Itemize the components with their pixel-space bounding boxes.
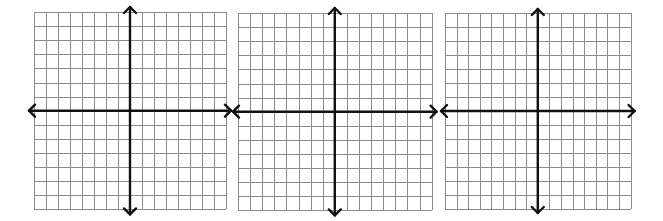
coordinate-plane-3 xyxy=(441,9,635,213)
axes xyxy=(441,9,635,213)
axes xyxy=(29,7,231,214)
worksheet-canvas xyxy=(0,0,663,221)
coordinate-plane-1 xyxy=(29,7,231,214)
axes xyxy=(233,8,437,215)
coordinate-plane-2 xyxy=(233,8,437,215)
